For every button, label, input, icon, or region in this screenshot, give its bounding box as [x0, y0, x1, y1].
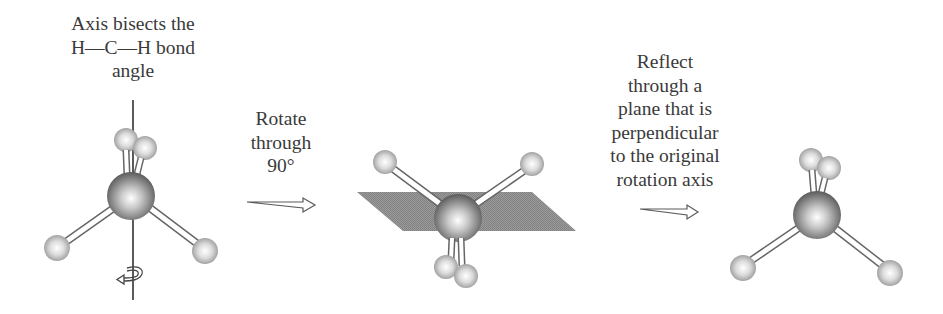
- arrow-rotate: [247, 198, 315, 212]
- rotation-arrow-icon: [117, 267, 142, 284]
- hydrogen-atom: [877, 260, 903, 286]
- bond-left: [60, 205, 118, 246]
- carbon-atom: [107, 172, 155, 220]
- caption-line: perpendicular: [595, 121, 735, 145]
- caption-line: rotation axis: [595, 168, 735, 192]
- bond-right: [832, 226, 886, 268]
- caption-line: Rotate: [231, 107, 331, 131]
- caption-line: Reflect: [595, 50, 735, 74]
- carbon-atom: [434, 194, 482, 242]
- hydrogen-atom: [730, 255, 756, 281]
- caption-line: through: [231, 131, 331, 155]
- caption-reflect: Reflect through a plane that is perpendi…: [595, 50, 735, 191]
- caption-line: Axis bisects the: [33, 12, 233, 36]
- hydrogen-atom: [520, 152, 544, 176]
- caption-line: to the original: [595, 144, 735, 168]
- molecule-rotated: [357, 150, 576, 288]
- molecule-reflected: [730, 148, 903, 286]
- bond-top-back: [126, 150, 127, 175]
- molecule-original: [44, 100, 218, 300]
- hydrogen-atom: [817, 156, 841, 180]
- caption-line: 90°: [231, 154, 331, 178]
- bond-right: [146, 205, 203, 248]
- hydrogen-atom: [192, 238, 218, 264]
- hydrogen-atom: [44, 235, 70, 261]
- hydrogen-atom: [373, 150, 397, 174]
- bond-lower-front: [461, 238, 462, 266]
- caption-line: H—C—H bond: [33, 36, 233, 60]
- caption-line: angle: [33, 59, 233, 83]
- caption-axis: Axis bisects the H—C—H bond angle: [33, 12, 233, 83]
- caption-line: through a: [595, 74, 735, 98]
- arrow-reflect: [640, 205, 698, 219]
- hydrogen-atom: [133, 136, 157, 160]
- carbon-atom: [793, 191, 841, 239]
- caption-line: plane that is: [595, 97, 735, 121]
- bond-left: [746, 225, 803, 264]
- caption-rotate: Rotate through 90°: [231, 107, 331, 178]
- hydrogen-atom: [454, 264, 478, 288]
